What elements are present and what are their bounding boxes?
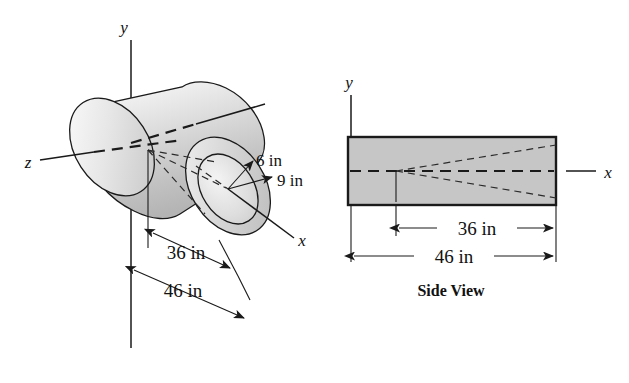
- side-view-rectangle: [348, 137, 556, 205]
- y-axis-label-side: y: [343, 73, 353, 92]
- outer-radius-label-3d: 9 in: [277, 171, 303, 190]
- extension-line-36-3d: [219, 240, 238, 276]
- dimension-label-36-side: 36 in: [458, 218, 497, 239]
- dimension-label-46-3d: 46 in: [164, 280, 203, 301]
- x-axis-label-3d: x: [297, 231, 306, 250]
- extension-line-46-3d: [238, 276, 250, 300]
- y-axis-label-3d: y: [118, 18, 128, 37]
- x-axis-label-side: x: [603, 163, 612, 182]
- bore-radius-label-3d: 6 in: [256, 151, 282, 170]
- side-view-group: y x 36 in 46 in Side: [343, 73, 612, 299]
- side-view-caption: Side View: [417, 282, 485, 299]
- dimension-label-46-side: 46 in: [435, 246, 474, 267]
- dimension-label-36-3d: 36 in: [167, 242, 206, 263]
- engineering-figure: y z x: [0, 0, 629, 383]
- z-axis-label-3d: z: [24, 153, 32, 172]
- isometric-view-group: y z x: [24, 18, 307, 348]
- figure-canvas: y z x: [0, 0, 629, 383]
